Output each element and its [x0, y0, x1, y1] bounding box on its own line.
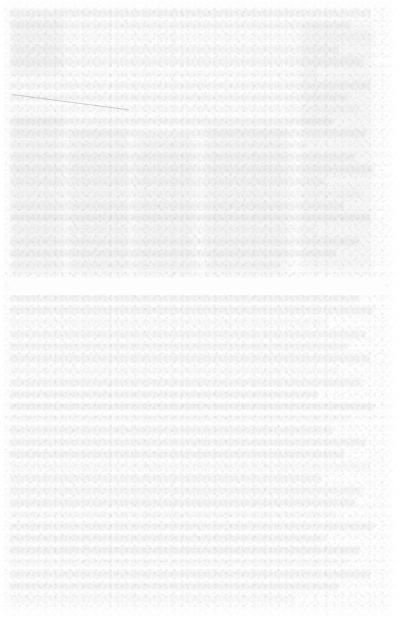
illegible-text-line: [10, 439, 366, 446]
illegible-text-line: [10, 511, 336, 518]
illegible-text-line: [10, 583, 340, 590]
illegible-text-line: [10, 535, 325, 542]
illegible-text-line: [10, 22, 351, 29]
illegible-text-line: [10, 118, 333, 125]
illegible-text-line: [10, 499, 355, 506]
illegible-text-line: [10, 463, 370, 470]
illegible-text-line: [10, 166, 374, 173]
page-content: [10, 8, 385, 605]
illegible-text-line: [10, 367, 340, 374]
illegible-text-line: [10, 58, 363, 65]
illegible-text-line: [10, 262, 280, 269]
illegible-text-line: [10, 559, 348, 566]
illegible-text-line: [10, 547, 359, 554]
section-break: [10, 278, 385, 295]
illegible-text-line: [10, 10, 370, 17]
illegible-text-line: [10, 214, 370, 221]
illegible-text-line: [10, 451, 344, 458]
illegible-text-line: [10, 403, 374, 410]
illegible-text-line: [10, 415, 351, 422]
illegible-text-line: [10, 427, 333, 434]
illegible-text-line: [10, 82, 370, 89]
illegible-text-line: [10, 307, 374, 314]
illegible-text-line: [10, 391, 318, 398]
illegible-text-line: [10, 487, 363, 494]
lower-content-region: [10, 295, 385, 605]
illegible-text-line: [10, 226, 314, 233]
illegible-text-line: [10, 331, 366, 338]
illegible-text-line: [10, 178, 325, 185]
illegible-text-line: [10, 130, 366, 137]
illegible-text-line: [10, 295, 359, 302]
illegible-text-line: [10, 475, 321, 482]
illegible-text-line: [10, 46, 340, 53]
illegible-text-line: [10, 571, 370, 578]
illegible-text-line: [10, 523, 374, 530]
illegible-text-line: [10, 70, 318, 77]
illegible-text-line: [10, 250, 336, 257]
illegible-text-line: [10, 142, 306, 149]
illegible-text-line: [10, 106, 359, 113]
illegible-text-line: [10, 190, 363, 197]
illegible-text-line: [10, 34, 374, 41]
illegible-text-line: [10, 238, 359, 245]
illegible-text-line: [10, 355, 370, 362]
upper-content-region: [10, 10, 385, 280]
illegible-text-line: [10, 202, 344, 209]
illegible-text-line: [10, 343, 348, 350]
illegible-text-line: [10, 595, 295, 602]
scanned-page: [0, 0, 405, 628]
illegible-text-line: [10, 379, 363, 386]
illegible-text-line: [10, 154, 355, 161]
illegible-text-line: [10, 319, 329, 326]
